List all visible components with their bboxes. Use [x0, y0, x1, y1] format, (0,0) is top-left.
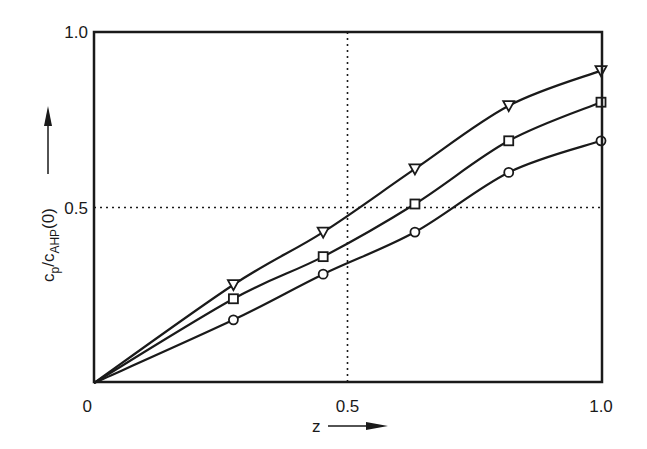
marker-triangle: [503, 101, 514, 111]
y-tick-label: 1.0: [64, 23, 88, 42]
x-axis-label: z: [312, 417, 321, 436]
gridlines: [94, 32, 601, 383]
marker-circle: [504, 168, 513, 177]
marker-square: [229, 294, 238, 303]
y-axis-arrow-icon: [44, 106, 52, 126]
y-tick-labels: 0.51.0: [64, 23, 88, 218]
marker-square: [504, 136, 513, 145]
marker-circle: [229, 315, 238, 324]
x-axis-label-group: z: [312, 417, 388, 436]
marker-circle: [319, 270, 328, 279]
chart: 00.51.0 0.51.0 z cp/cAHP(0): [0, 0, 647, 449]
marker-triangle: [409, 164, 420, 174]
y-label-suffix: (0): [39, 208, 58, 229]
series-markers: [228, 66, 607, 324]
y-tick-label: 0.5: [64, 199, 88, 218]
curve-square: [94, 102, 601, 383]
x-tick-label: 0: [83, 397, 92, 416]
marker-square: [319, 252, 328, 261]
x-tick-label: 0.5: [336, 397, 360, 416]
marker-triangle: [228, 280, 239, 290]
y-axis-label: cp/cAHP(0): [39, 208, 62, 282]
x-axis-arrow-icon: [366, 422, 388, 430]
y-label-slash: /c: [39, 253, 58, 267]
x-tick-label: 1.0: [589, 397, 613, 416]
x-tick-labels: 00.51.0: [83, 397, 613, 416]
marker-triangle: [318, 228, 329, 238]
y-axis-label-group: cp/cAHP(0): [39, 106, 62, 282]
marker-circle: [410, 228, 419, 237]
marker-square: [410, 199, 419, 208]
y-label-sub-ahp: AHP: [48, 229, 62, 254]
